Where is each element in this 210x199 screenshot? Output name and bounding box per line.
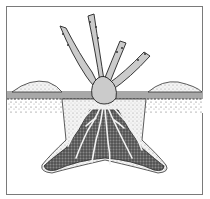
soil-cone bbox=[44, 110, 164, 171]
left-soil-mound bbox=[12, 81, 62, 92]
right-soil-mound bbox=[148, 82, 202, 92]
rose-planting-illustration bbox=[0, 0, 210, 199]
rose-canes bbox=[60, 14, 150, 104]
